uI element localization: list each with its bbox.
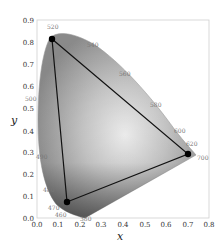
x-tick-0.7: 0.7: [182, 221, 193, 229]
wl-label-520: 520: [47, 23, 59, 30]
wl-label-460: 460: [55, 211, 67, 218]
x-tick-0.5: 0.5: [139, 221, 150, 229]
wl-label-620: 620: [186, 140, 198, 147]
y-tick-0.6: 0.6: [23, 83, 35, 91]
y-tick-0.9: 0.9: [23, 17, 34, 25]
wl-label-560: 560: [119, 70, 131, 77]
primary-red-point: [185, 151, 191, 157]
y-tick-0.8: 0.8: [23, 39, 34, 47]
wl-label-700: 700: [197, 154, 209, 161]
wl-label-480: 480: [43, 186, 55, 193]
primary-green-point: [49, 36, 55, 42]
y-axis: 0.9 0.8 0.7 0.6 0.5 0.4 0.3 0.2 0.1 0.0: [23, 17, 35, 223]
x-tick-0.8: 0.8: [203, 221, 214, 229]
x-axis-title: x: [117, 230, 124, 243]
y-tick-0.3: 0.3: [23, 149, 34, 157]
wl-label-500: 500: [25, 95, 37, 102]
wl-label-490: 490: [36, 153, 48, 160]
wl-label-470: 470: [48, 204, 60, 211]
y-tick-0.1: 0.1: [23, 193, 34, 201]
x-tick-0.4: 0.4: [117, 221, 129, 229]
x-tick-0.1: 0.1: [52, 221, 63, 229]
x-tick-0.2: 0.2: [74, 221, 85, 229]
x-tick-0.3: 0.3: [95, 221, 106, 229]
y-tick-0.2: 0.2: [23, 171, 34, 179]
y-tick-0.4: 0.4: [23, 128, 35, 136]
chromaticity-chart: 520 540 560 580 600 620 700 500 490 480 …: [0, 0, 223, 245]
primary-blue-point: [64, 199, 70, 205]
x-tick-0.0: 0.0: [31, 221, 42, 229]
y-tick-0.7: 0.7: [23, 61, 34, 69]
x-axis: 0.0 0.1 0.2 0.3 0.4 0.5 0.6 0.7 0.8: [31, 221, 214, 229]
y-tick-0.5: 0.5: [23, 105, 34, 113]
x-tick-0.6: 0.6: [160, 221, 172, 229]
wl-label-580: 580: [150, 101, 162, 108]
wl-label-540: 540: [87, 41, 99, 48]
wl-label-600: 600: [174, 127, 186, 134]
y-axis-title: y: [10, 114, 18, 127]
